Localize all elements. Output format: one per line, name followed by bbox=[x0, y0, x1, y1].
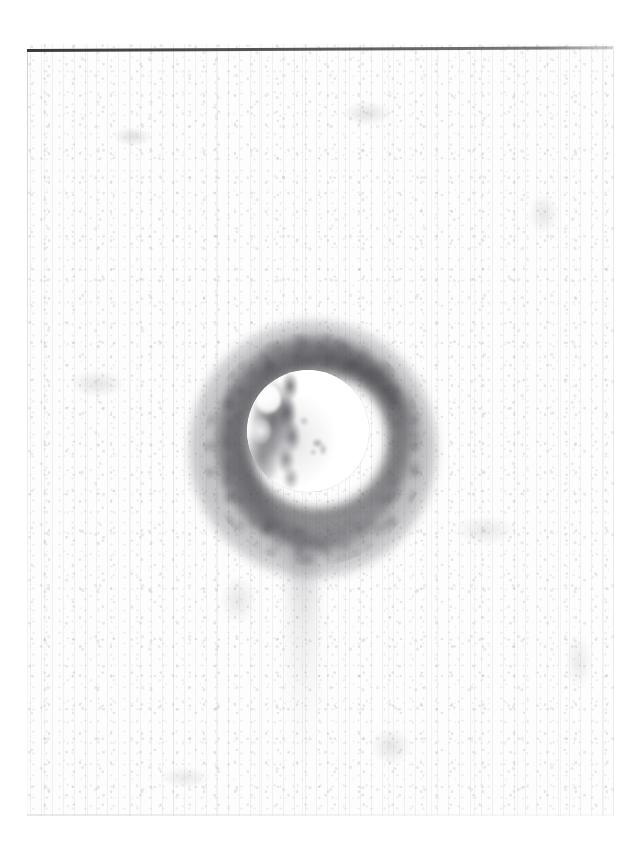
limb-shading bbox=[247, 370, 369, 492]
plate-edge-right bbox=[613, 50, 614, 816]
scanned-plate-sheet: Scanned archival photographic plate bbox=[27, 44, 614, 816]
plate-edge-bottom bbox=[27, 814, 613, 816]
scanned-page: Scanned archival photographic plate bbox=[0, 0, 639, 859]
top-horizontal-rule bbox=[27, 46, 613, 52]
vertical-smudge-trail bbox=[289, 544, 317, 774]
plate-edge-left bbox=[27, 50, 28, 816]
plate-caption: Scanned archival photographic plate bbox=[27, 44, 28, 45]
celestial-disc bbox=[247, 370, 369, 492]
